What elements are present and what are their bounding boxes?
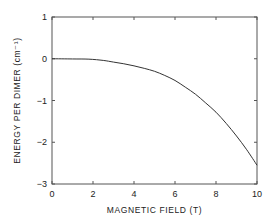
x-axis-title: MAGNETIC FIELD (T) xyxy=(107,205,202,215)
y-axis-title: ENERGY PER DIMER (cm⁻¹) xyxy=(12,37,22,163)
y-tick-label: 0 xyxy=(42,54,47,64)
y-tick-label: −1 xyxy=(37,96,47,106)
plot-border xyxy=(52,17,257,184)
y-tick-label: −3 xyxy=(37,179,47,189)
x-tick-label: 2 xyxy=(90,189,95,199)
axis-ticks xyxy=(52,17,257,184)
x-tick-label: 6 xyxy=(172,189,177,199)
energy-curve xyxy=(52,59,257,165)
x-tick-label: 4 xyxy=(131,189,136,199)
plot-frame xyxy=(52,17,257,184)
y-tick-label: 1 xyxy=(42,12,47,22)
x-axis-tick-labels: 0246810 xyxy=(49,189,262,199)
y-axis-tick-labels: 10−1−2−3 xyxy=(37,12,47,189)
x-tick-label: 10 xyxy=(252,189,262,199)
line-chart: 0246810 10−1−2−3 MAGNETIC FIELD (T) ENER… xyxy=(0,0,276,222)
x-tick-label: 8 xyxy=(213,189,218,199)
x-tick-label: 0 xyxy=(49,189,54,199)
y-tick-label: −2 xyxy=(37,137,47,147)
